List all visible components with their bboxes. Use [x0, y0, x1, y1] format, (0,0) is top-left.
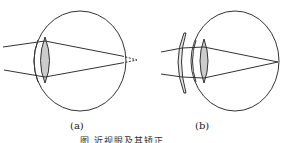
lens-b: [200, 39, 208, 83]
ray-b-bottom-out: [204, 62, 278, 78]
ray-a-bottom-in: [4, 70, 45, 77]
concave-corrective-lens: [178, 33, 186, 93]
ray-b-top-out: [204, 47, 278, 62]
figure-caption: 图 近视眼及其矫正: [80, 134, 164, 143]
panel-b-corrected-eye: [161, 11, 279, 111]
panel-b-label: (b): [195, 120, 209, 131]
ray-a-bottom-dashed: [122, 60, 137, 63]
panel-a-myopic-eye: [3, 11, 137, 111]
ray-a-top-out: [45, 41, 122, 56]
ray-b-bottom-mid: [182, 77, 204, 78]
ray-a-top-in: [3, 41, 45, 47]
ray-b-top-mid: [182, 47, 204, 48]
ray-a-top-dashed: [122, 56, 137, 60]
ray-a-bottom-out: [45, 63, 122, 77]
eye-diagram: [0, 0, 283, 143]
panel-a-label: (a): [70, 120, 84, 131]
